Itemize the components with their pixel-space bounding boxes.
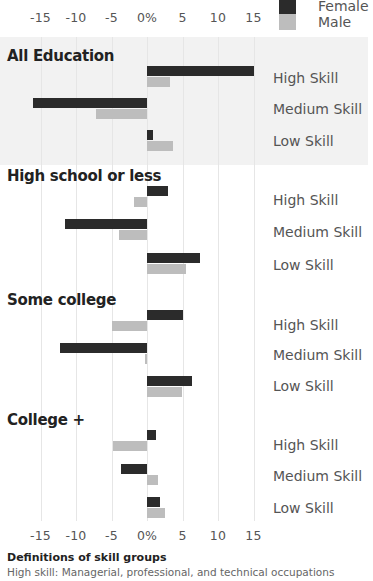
axis-tick-label: 10	[210, 10, 226, 25]
section-title-some-college: Some college	[7, 291, 116, 309]
male-bar	[147, 508, 165, 518]
gridline	[183, 37, 184, 521]
female-bar	[121, 464, 147, 474]
male-bar	[112, 321, 147, 331]
male-bar	[147, 77, 170, 87]
male-bar	[145, 354, 147, 364]
male-bar	[147, 141, 173, 151]
skill-label: High Skill	[273, 317, 338, 333]
legend-female-label: Female	[318, 0, 369, 14]
female-bar	[60, 343, 147, 353]
skill-label: Medium Skill	[273, 224, 362, 240]
skill-label: Low Skill	[273, 257, 334, 273]
skill-label: Medium Skill	[273, 468, 362, 484]
legend-male-swatch	[279, 14, 296, 30]
axis-tick-label: 15	[245, 10, 261, 25]
male-bar	[147, 475, 158, 485]
female-bar	[33, 98, 147, 108]
section-title-high-school: High school or less	[7, 167, 161, 185]
section-title-all-education: All Education	[7, 47, 114, 65]
female-bar	[147, 310, 183, 320]
female-bar	[147, 253, 200, 263]
gridline	[76, 37, 77, 521]
axis-tick-label: -10	[65, 10, 86, 25]
skill-label: Low Skill	[273, 500, 334, 516]
axis-tick-label: -10	[65, 528, 86, 543]
skill-label: Low Skill	[273, 378, 334, 394]
axis-tick-label: 0%	[137, 528, 157, 543]
female-bar	[147, 497, 160, 507]
female-bar	[147, 376, 192, 386]
male-bar	[119, 230, 147, 240]
female-bar	[147, 430, 156, 440]
skill-label: High Skill	[273, 192, 338, 208]
skill-label: Medium Skill	[273, 101, 362, 117]
section-title-college-plus: College +	[7, 411, 85, 429]
gridline	[218, 37, 219, 521]
axis-tick-label: 0%	[137, 10, 157, 25]
definition-high-skill: High skill: Managerial, professional, an…	[7, 566, 334, 578]
gridline	[41, 37, 42, 521]
axis-tick-label: 15	[245, 528, 261, 543]
legend-male-label: Male	[318, 14, 351, 30]
male-bar	[147, 264, 186, 274]
male-bar	[134, 197, 147, 207]
skill-label: Low Skill	[273, 133, 334, 149]
gridline	[254, 37, 255, 521]
female-bar	[147, 130, 153, 140]
axis-tick-label: 10	[210, 528, 226, 543]
axis-tick-label: -5	[105, 10, 118, 25]
male-bar	[147, 387, 182, 397]
axis-tick-label: -15	[30, 528, 51, 543]
gridline	[147, 37, 148, 521]
definitions-title: Definitions of skill groups	[7, 551, 166, 564]
skill-label: Medium Skill	[273, 347, 362, 363]
female-bar	[147, 186, 168, 196]
axis-tick-label: 5	[178, 528, 186, 543]
axis-tick-label: -5	[105, 528, 118, 543]
female-bar	[65, 219, 147, 229]
female-bar	[147, 66, 254, 76]
skill-label: High Skill	[273, 437, 338, 453]
legend-female-swatch	[279, 0, 296, 14]
axis-tick-label: 5	[178, 10, 186, 25]
male-bar	[113, 441, 147, 451]
skill-label: High Skill	[273, 70, 338, 86]
axis-tick-label: -15	[30, 10, 51, 25]
male-bar	[96, 109, 147, 119]
